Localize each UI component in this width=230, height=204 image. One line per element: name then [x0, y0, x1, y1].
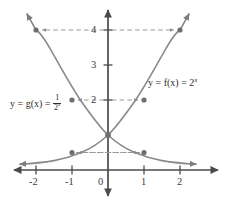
curve-label-f-exponent: x	[194, 76, 197, 84]
curve-label-f-text: y = f(x) = 2	[148, 77, 194, 88]
curve-label-g-denominator-exponent: x	[58, 102, 60, 108]
point-2-4	[177, 27, 182, 32]
point--1-0.5	[69, 150, 74, 155]
curve-label-g-fraction: 12x	[53, 94, 61, 113]
point--1-2	[69, 97, 74, 102]
point-1-2	[141, 97, 146, 102]
point-1-0.5	[141, 150, 146, 155]
point--2-4	[33, 27, 38, 32]
x-tick-label-0: 0	[98, 177, 103, 188]
curve-g-one-half-to-the-x	[27, 14, 196, 164]
x-tick-label--2: -2	[29, 177, 38, 188]
x-tick-label--1: -1	[65, 177, 74, 188]
y-tick-label-4: 4	[91, 25, 96, 36]
curve-label-g: y = g(x) = 12x	[10, 95, 61, 114]
curve-label-g-denominator: 2x	[53, 104, 61, 112]
curve-f-2-to-the-x	[20, 14, 189, 164]
curve-label-g-text: y = g(x) =	[10, 98, 53, 109]
x-tick-label-2: 2	[177, 177, 182, 188]
y-tick-label-2: 2	[91, 95, 96, 106]
x-tick-label-1: 1	[141, 177, 146, 188]
curve-label-f: y = f(x) = 2x	[148, 78, 197, 88]
y-tick-label-3: 3	[91, 60, 96, 71]
exponential-functions-graph: 4 3 2 -2 -1 0 1 2 y = f(x) = 2x y = g(x)…	[0, 0, 230, 204]
point-0-1-intersection	[105, 132, 111, 138]
